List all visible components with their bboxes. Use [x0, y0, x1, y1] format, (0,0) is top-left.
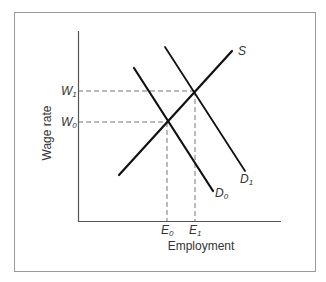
d1-label: D1: [240, 172, 253, 187]
w1-label: W1: [61, 84, 77, 99]
labor-market-diagram: S D1 D0 W1 W0 E0 E1 Employment Wage rate: [0, 0, 326, 282]
demand-curve-d1: [165, 47, 245, 171]
w0-label: W0: [61, 115, 77, 130]
supply-label: S: [238, 44, 246, 58]
y-axis-title: Wage rate: [40, 105, 54, 160]
e0-label: E0: [161, 223, 174, 238]
x-axis-title: Employment: [168, 239, 235, 253]
e1-label: E1: [189, 223, 201, 238]
d0-label: D0: [215, 186, 229, 201]
